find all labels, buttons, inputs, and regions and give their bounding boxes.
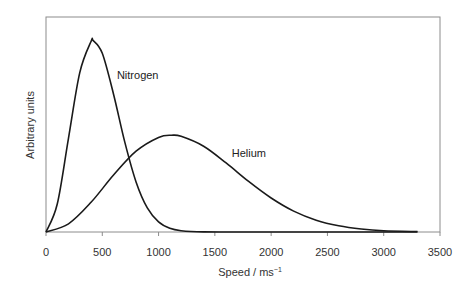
series-label-nitrogen: Nitrogen [117, 69, 159, 81]
series-labels: NitrogenHelium [117, 69, 266, 158]
x-tick-label: 3500 [428, 246, 452, 258]
chart: 0500100015002000250030003500 NitrogenHel… [0, 0, 474, 293]
x-tick-label: 2500 [315, 246, 339, 258]
x-axis-title: Speed / ms−1 [218, 266, 282, 278]
series-lines [46, 38, 417, 232]
series-line-nitrogen [46, 38, 417, 232]
plot-area-frame [46, 17, 440, 232]
x-tick-label: 3000 [371, 246, 395, 258]
series-label-helium: Helium [232, 147, 266, 159]
x-tick-label: 2000 [259, 246, 283, 258]
x-tick-label: 500 [93, 246, 111, 258]
x-tick-label: 1500 [203, 246, 227, 258]
x-tick-label: 1000 [146, 246, 170, 258]
x-tick-label: 0 [43, 246, 49, 258]
x-axis-tick-labels: 0500100015002000250030003500 [43, 246, 452, 258]
y-axis-title: Arbitrary units [24, 91, 36, 159]
